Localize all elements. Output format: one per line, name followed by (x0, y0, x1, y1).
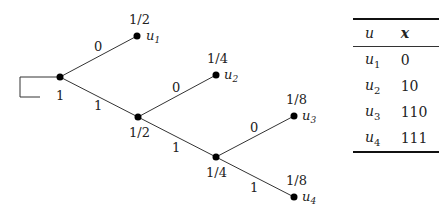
leaf-name: u4 (302, 189, 316, 206)
edge-label: 1 (250, 180, 258, 195)
leaf-u1 (134, 33, 141, 40)
leaf-prob: 1/8 (286, 173, 307, 188)
table-row: u2 10 (353, 73, 439, 99)
table-header-row: u x (353, 19, 439, 47)
cell-u: u2 (353, 73, 389, 99)
node-prob: 1/2 (129, 125, 150, 140)
cell-x: 110 (389, 99, 439, 125)
leaf-u3 (291, 113, 298, 120)
node-n1 (57, 74, 64, 81)
table-row: u3 110 (353, 99, 439, 125)
leaf-name: u1 (146, 28, 160, 45)
node-n3 (213, 154, 220, 161)
cell-x: 10 (389, 73, 439, 99)
edge-label: 0 (94, 39, 102, 54)
codeword-table: u x u1 0 u2 10 u3 110 u4 111 (353, 18, 439, 153)
node-prob: 1 (56, 88, 64, 103)
leaf-u2 (213, 72, 220, 79)
edge-label: 0 (250, 120, 258, 135)
leaf-prob: 1/8 (286, 92, 307, 107)
leaf-prob: 1/4 (207, 51, 228, 66)
cell-x: 111 (389, 125, 439, 152)
leaf-u4 (291, 194, 298, 201)
node-prob: 1/4 (206, 165, 227, 180)
node-n2 (135, 114, 142, 121)
cell-x: 0 (389, 47, 439, 74)
edge-label: 1 (172, 140, 180, 155)
edge-label: 0 (172, 80, 180, 95)
cell-u: u1 (353, 47, 389, 74)
leaf-prob: 1/2 (129, 12, 150, 27)
cell-u: u3 (353, 99, 389, 125)
table-row: u1 0 (353, 47, 439, 74)
header-u: u (353, 19, 389, 47)
leaf-name: u3 (302, 108, 316, 125)
leaf-name: u2 (224, 67, 238, 84)
edge-label: 1 (94, 98, 102, 113)
cell-u: u4 (353, 125, 389, 152)
root-bracket (20, 77, 60, 97)
table-row: u4 111 (353, 125, 439, 152)
header-x: x (389, 19, 439, 47)
